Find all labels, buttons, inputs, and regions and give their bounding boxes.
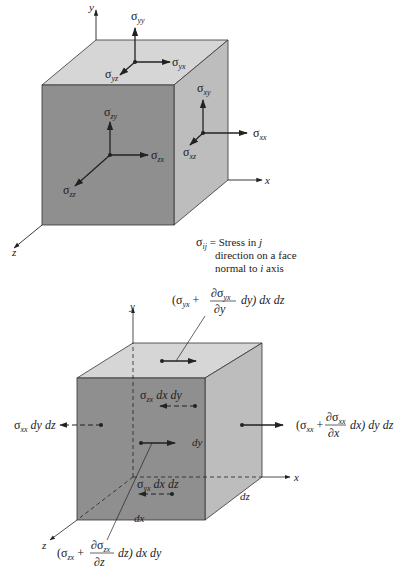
label-sigma-xx: σxx bbox=[253, 126, 267, 142]
svg-text:∂σxx: ∂σxx bbox=[326, 410, 346, 426]
y-axis-label: y bbox=[88, 1, 94, 13]
label-sigma-yy: σyy bbox=[131, 9, 145, 25]
front-face-force-label: (σzx + ∂σzx ∂z dz) dx dy bbox=[57, 538, 162, 569]
z-axis-label: z bbox=[41, 539, 47, 551]
z-axis-arrow bbox=[14, 225, 42, 248]
top-face-force-point bbox=[160, 359, 164, 363]
legend-line-2: direction on a face bbox=[215, 249, 297, 261]
dim-dx: dx bbox=[134, 512, 145, 524]
svg-text:(σzx +: (σzx + bbox=[57, 546, 84, 562]
svg-text:dx) dy dz: dx) dy dz bbox=[350, 418, 394, 432]
top-face-force-label: (σyx + ∂σyx ∂y dy) dx dz bbox=[172, 286, 285, 316]
x-axis-label: x bbox=[264, 174, 270, 186]
stress-element-diagram: y x z σyy σyx σyz σxy σxx σxz σzy σzx σz… bbox=[0, 0, 411, 577]
right-face-force-point bbox=[240, 423, 244, 427]
z-axis-arrow bbox=[50, 520, 77, 540]
legend-line-3: normal to i axis bbox=[215, 262, 284, 274]
front-face-point bbox=[108, 153, 112, 157]
stress-definition-legend: σij = Stress in j direction on a face no… bbox=[196, 235, 297, 274]
svg-text:(σxx +: (σxx + bbox=[296, 418, 324, 434]
bottom-face-force-label: σyx dx dz bbox=[137, 477, 179, 493]
svg-text:∂z: ∂z bbox=[94, 555, 105, 569]
y-axis-label: y bbox=[129, 300, 135, 312]
svg-text:dy) dx dz: dy) dx dz bbox=[241, 293, 285, 307]
x-axis-label: x bbox=[293, 471, 299, 483]
back-face-force-label: σzx dx dy bbox=[140, 388, 182, 404]
left-face-force-label: σxx dy dz bbox=[14, 418, 56, 434]
back-face-force-point bbox=[193, 404, 197, 408]
z-axis-label: z bbox=[11, 246, 17, 258]
right-face-force-label: (σxx + ∂σxx ∂x dx) dy dz bbox=[296, 410, 394, 440]
svg-text:dz) dx dy: dz) dx dy bbox=[118, 546, 162, 560]
dim-dy: dy bbox=[192, 436, 203, 448]
svg-text:(σyx +: (σyx + bbox=[172, 293, 200, 309]
front-face-force-point bbox=[139, 441, 143, 445]
top-face-point bbox=[133, 60, 137, 64]
right-face-point bbox=[201, 131, 205, 135]
svg-text:∂y: ∂y bbox=[214, 302, 226, 316]
bottom-face-force-point bbox=[170, 492, 174, 496]
left-face-force-point bbox=[99, 423, 103, 427]
svg-text:∂σzx: ∂σzx bbox=[91, 538, 111, 554]
dim-dz: dz bbox=[240, 490, 251, 502]
svg-text:∂σyx: ∂σyx bbox=[211, 286, 231, 302]
svg-text:∂x: ∂x bbox=[328, 426, 340, 440]
